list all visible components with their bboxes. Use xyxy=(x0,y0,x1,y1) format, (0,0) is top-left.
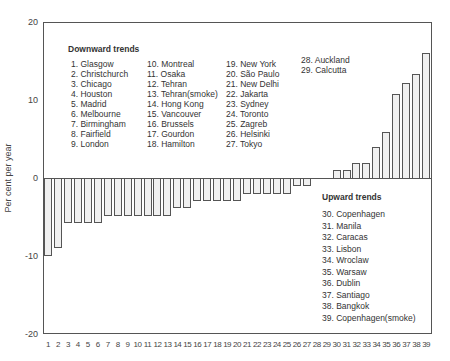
x-tick-4: 4 xyxy=(73,340,83,349)
legend-downward-col-1: 1. Glasgow 2. Christchurch 3. Chicago 4.… xyxy=(71,59,128,149)
bar-36 xyxy=(392,94,400,179)
legend-item: 9. London xyxy=(71,139,128,149)
legend-upward-list: 30. Copenhagen 31. Manila 32. Caracas 33… xyxy=(322,209,416,324)
legend-item: 26. Helsinki xyxy=(226,129,279,139)
legend-item: 10. Montreal xyxy=(147,59,218,69)
x-tick-8: 8 xyxy=(113,340,123,349)
x-tick-31: 31 xyxy=(342,340,352,349)
legend-item: 22. Jakarta xyxy=(226,89,279,99)
bar-6 xyxy=(94,178,102,223)
legend-item: 7. Birmingham xyxy=(71,119,128,129)
x-tick-12: 12 xyxy=(152,340,162,349)
x-tick-24: 24 xyxy=(272,340,282,349)
legend-item: 6. Melbourne xyxy=(71,109,128,119)
legend-item: 20. São Paulo xyxy=(226,69,279,79)
bar-10 xyxy=(134,178,142,216)
bar-9 xyxy=(124,178,132,216)
legend-item: 35. Warsaw xyxy=(322,267,416,279)
legend-item: 19. New York xyxy=(226,59,279,69)
legend-item: 1. Glasgow xyxy=(71,59,128,69)
bar-19 xyxy=(223,178,231,201)
bar-24 xyxy=(273,178,281,194)
legend-item: 33. Lisbon xyxy=(322,244,416,256)
x-tick-29: 29 xyxy=(322,340,332,349)
legend-item: 31. Manila xyxy=(322,221,416,233)
x-tick-2: 2 xyxy=(53,340,63,349)
bar-17 xyxy=(203,178,211,201)
legend-downward-col-3: 19. New York 20. São Paulo 21. New Delhi… xyxy=(226,59,279,149)
x-tick-14: 14 xyxy=(172,340,182,349)
x-tick-32: 32 xyxy=(351,340,361,349)
bar-26 xyxy=(293,178,301,186)
x-tick-9: 9 xyxy=(123,340,133,349)
x-tick-7: 7 xyxy=(103,340,113,349)
y-axis-label: Per cent per year xyxy=(3,143,13,212)
bar-3 xyxy=(64,178,72,223)
legend-item: 15. Vancouver xyxy=(147,109,218,119)
legend-title-downward: Downward trends xyxy=(68,44,139,54)
legend-title-upward: Upward trends xyxy=(322,192,382,202)
bar-8 xyxy=(114,178,122,216)
legend-item: 14. Hong Kong xyxy=(147,99,218,109)
legend-item: 13. Tehran(smoke) xyxy=(147,89,218,99)
bar-25 xyxy=(283,178,291,194)
legend-item: 36. Dublin xyxy=(322,278,416,290)
x-tick-34: 34 xyxy=(371,340,381,349)
bar-15 xyxy=(183,178,191,208)
x-tick-17: 17 xyxy=(202,340,212,349)
x-tick-30: 30 xyxy=(332,340,342,349)
legend-item: 34. Wroclaw xyxy=(322,255,416,267)
x-tick-21: 21 xyxy=(242,340,252,349)
x-tick-19: 19 xyxy=(222,340,232,349)
x-tick-26: 26 xyxy=(292,340,302,349)
legend-item: 24. Toronto xyxy=(226,109,279,119)
y-tick-0: 0 xyxy=(33,173,38,183)
bar-32 xyxy=(352,163,360,179)
legend-item: 25. Zagreb xyxy=(226,119,279,129)
x-tick-13: 13 xyxy=(162,340,172,349)
legend-item: 27. Tokyo xyxy=(226,139,279,149)
bar-11 xyxy=(144,178,152,216)
x-tick-1: 1 xyxy=(43,340,53,349)
bar-12 xyxy=(153,178,161,216)
x-tick-38: 38 xyxy=(411,340,421,349)
bar-22 xyxy=(253,178,261,194)
x-tick-25: 25 xyxy=(282,340,292,349)
legend-item: 11. Osaka xyxy=(147,69,218,79)
legend-item: 39. Copenhagen(smoke) xyxy=(322,313,416,325)
x-tick-16: 16 xyxy=(192,340,202,349)
x-tick-36: 36 xyxy=(391,340,401,349)
x-tick-23: 23 xyxy=(262,340,272,349)
bar-39 xyxy=(422,53,430,179)
x-tick-11: 11 xyxy=(143,340,153,349)
bar-18 xyxy=(213,178,221,201)
x-tick-18: 18 xyxy=(212,340,222,349)
bar-35 xyxy=(382,132,390,179)
legend-item: 8. Fairfield xyxy=(71,129,128,139)
legend-item: 17. Gourdon xyxy=(147,129,218,139)
bar-30 xyxy=(333,170,341,179)
legend-item: 3. Chicago xyxy=(71,79,128,89)
legend-item: 29. Calcutta xyxy=(301,65,350,75)
legend-item: 32. Caracas xyxy=(322,232,416,244)
bar-chart: 20 10 0 -10 -20 Per cent per year 123456… xyxy=(0,0,450,361)
bar-16 xyxy=(193,178,201,201)
legend-item: 23. Sydney xyxy=(226,99,279,109)
bar-2 xyxy=(54,178,62,248)
legend-item: 30. Copenhagen xyxy=(322,209,416,221)
x-tick-33: 33 xyxy=(361,340,371,349)
bar-33 xyxy=(362,163,370,179)
y-tick-neg10: -10 xyxy=(25,251,38,261)
legend-item: 16. Brussels xyxy=(147,119,218,129)
bar-21 xyxy=(243,178,251,194)
x-tick-5: 5 xyxy=(83,340,93,349)
legend-item: 5. Madrid xyxy=(71,99,128,109)
bar-34 xyxy=(372,147,380,179)
y-tick-10: 10 xyxy=(28,95,38,105)
x-tick-27: 27 xyxy=(302,340,312,349)
legend-item: 4. Houston xyxy=(71,89,128,99)
x-tick-10: 10 xyxy=(133,340,143,349)
bar-31 xyxy=(343,170,351,179)
y-tick-20: 20 xyxy=(28,17,38,27)
bar-5 xyxy=(84,178,92,223)
